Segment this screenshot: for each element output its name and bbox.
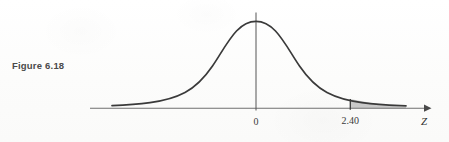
axis-tick-label-0: 0 — [254, 116, 259, 127]
figure-container: Figure 6.18 0 2.40 Z — [0, 0, 449, 142]
normal-curve-plot: 0 2.40 Z — [0, 0, 449, 142]
axis-name-label-z: Z — [421, 115, 428, 127]
normal-distribution-curve — [112, 21, 406, 106]
axis-arrow-icon — [424, 105, 432, 112]
axis-tick-label-2-40: 2.40 — [342, 115, 360, 126]
